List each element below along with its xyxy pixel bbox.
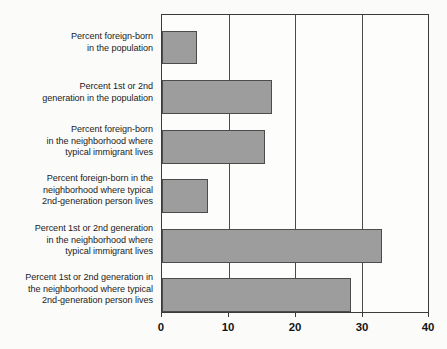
bar-chart-figure: Percent foreign-born in the population P…: [0, 0, 447, 349]
bar-0: [162, 31, 197, 64]
xtick-label-3: 30: [342, 321, 382, 333]
category-label-2-line-0: Percent foreign-born: [0, 124, 153, 136]
xtick-label-4: 40: [408, 321, 447, 333]
category-label-2: Percent foreign-born in the neighborhood…: [0, 124, 153, 159]
category-label-3-line-2: 2nd-generation person lives: [0, 196, 153, 208]
category-label-1-line-1: generation in the population: [0, 93, 153, 105]
category-label-3-line-1: neighborhood where typical: [0, 185, 153, 197]
category-label-2-line-2: typical immigrant lives: [0, 147, 153, 159]
xtick-mark-3: [362, 313, 363, 317]
xtick-label-0: 0: [141, 321, 181, 333]
plot-area: [161, 14, 429, 313]
bar-3: [162, 179, 208, 213]
bar-2: [162, 130, 265, 164]
category-label-0-line-1: in the population: [0, 43, 153, 55]
xtick-mark-4: [428, 313, 429, 317]
xtick-label-2: 20: [275, 321, 315, 333]
bar-1: [162, 80, 272, 114]
category-label-3: Percent foreign-born in the neighborhood…: [0, 173, 153, 208]
category-label-1: Percent 1st or 2nd generation in the pop…: [0, 81, 153, 104]
category-label-2-line-1: in the neighborhood where: [0, 136, 153, 148]
xtick-mark-2: [295, 313, 296, 317]
category-label-5-line-0: Percent 1st or 2nd generation in: [0, 272, 153, 284]
category-label-5: Percent 1st or 2nd generation in the nei…: [0, 272, 153, 307]
bar-4: [162, 229, 382, 263]
category-label-4-line-0: Percent 1st or 2nd generation: [0, 223, 153, 235]
gridline-30: [362, 15, 363, 312]
category-label-0: Percent foreign-born in the population: [0, 31, 153, 54]
xtick-mark-1: [228, 313, 229, 317]
category-label-4: Percent 1st or 2nd generation in the nei…: [0, 223, 153, 258]
category-label-5-line-2: 2nd-generation person lives: [0, 295, 153, 307]
gridline-20: [295, 15, 296, 312]
bar-5: [162, 278, 351, 312]
xtick-mark-0: [161, 313, 162, 317]
category-label-1-line-0: Percent 1st or 2nd: [0, 81, 153, 93]
category-label-0-line-0: Percent foreign-born: [0, 31, 153, 43]
category-label-4-line-1: in the neighborhood where: [0, 235, 153, 247]
category-axis-labels: Percent foreign-born in the population P…: [0, 14, 157, 313]
category-label-3-line-0: Percent foreign-born in the: [0, 173, 153, 185]
category-label-4-line-2: typical immigrant lives: [0, 246, 153, 258]
xtick-label-1: 10: [208, 321, 248, 333]
category-label-5-line-1: the neighborhood where typical: [0, 284, 153, 296]
